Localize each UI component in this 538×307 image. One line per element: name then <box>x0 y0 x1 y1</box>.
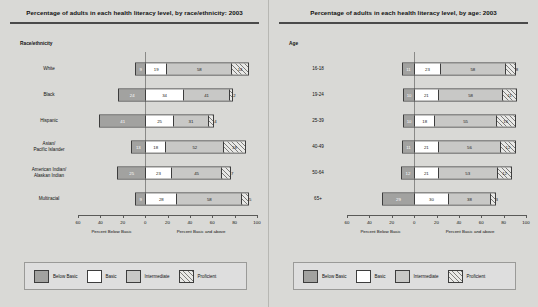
bar-segment-basic: 28 <box>146 194 177 205</box>
axis-tick-label: 20 <box>165 220 170 225</box>
axis-tick-label: 20 <box>120 220 125 225</box>
bar-segment-inter: 53 <box>439 168 498 179</box>
bar-segment-below: 9 <box>136 64 146 75</box>
legend-item: Below Basic <box>34 270 78 283</box>
legend-swatch-basic <box>87 270 102 283</box>
axis-caption-left: Percent Below Basic <box>360 229 400 234</box>
bar-segment-inter: 58 <box>177 194 242 205</box>
axis-tick <box>257 215 258 218</box>
panel-age: Percentage of adults in each health lite… <box>269 0 538 307</box>
bar-segment-inter: 38 <box>449 194 492 205</box>
axis-tick-label: 20 <box>434 220 439 225</box>
chart-row: Multiracial928585 <box>20 186 259 212</box>
axis-tick <box>481 215 482 218</box>
bar-segment-inter: 58 <box>439 90 504 101</box>
panel-title: Percentage of adults in each health lite… <box>269 9 538 16</box>
bar-segment-prof <box>491 194 494 205</box>
legend-label: Basic <box>106 274 117 279</box>
stacked-bar: 10185516 <box>403 115 516 128</box>
group-label: Race/ethnicity <box>20 41 53 46</box>
bar-segment-basic: 23 <box>415 64 441 75</box>
legend-label: Below Basic <box>53 274 78 279</box>
legend-item: Intermediate <box>395 270 439 283</box>
group-label: Age <box>289 41 298 46</box>
axis-tick-label: 60 <box>76 220 81 225</box>
axis-tick <box>504 215 505 218</box>
stacked-bar: 9195814 <box>135 63 249 76</box>
bar-segment-inter: 58 <box>441 64 506 75</box>
axis-tick <box>437 215 438 218</box>
stacked-bar: 10215811 <box>403 89 517 102</box>
bar-segment-inter: 58 <box>167 64 232 75</box>
stacked-bar: 12215312 <box>401 167 513 180</box>
bar-segment-below: 12 <box>402 168 415 179</box>
legend: Below BasicBasicIntermediateProficient <box>24 262 247 290</box>
bar-value-label: 2 <box>233 93 235 98</box>
category-label: 65+ <box>289 196 347 202</box>
axis-tick-label: 0 <box>144 220 146 225</box>
bar-value-label: 7 <box>231 171 233 176</box>
category-label: 16-18 <box>289 66 347 72</box>
bar-segment-inter: 56 <box>439 142 502 153</box>
axis-tick-label: 60 <box>479 220 484 225</box>
legend-swatch-prof <box>179 270 194 283</box>
chart-row: 40-4911215612 <box>289 134 528 160</box>
legend-swatch-below <box>34 270 49 283</box>
bar-segment-below: 11 <box>403 142 415 153</box>
axis-caption-right: Percent Basic and above <box>177 229 226 234</box>
legend-swatch-basic <box>356 270 371 283</box>
axis-tick <box>168 215 169 218</box>
plot-area: White9195814Black2434412Hispanic4125314A… <box>20 52 259 212</box>
title-rule <box>279 22 528 24</box>
axis-tick <box>123 215 124 218</box>
legend-label: Intermediate <box>145 274 170 279</box>
bar-segment-inter: 55 <box>435 116 497 127</box>
bar-segment-below: 9 <box>136 194 146 205</box>
chart-row: 50-6412215312 <box>289 160 528 186</box>
bar-segment-basic: 21 <box>415 142 438 153</box>
category-label: Hispanic <box>20 118 78 124</box>
legend-item: Proficient <box>179 270 217 283</box>
stacked-bar: 13185218 <box>131 141 246 154</box>
stacked-bar: 293038 <box>382 193 496 206</box>
legend: Below BasicBasicIntermediateProficient <box>293 262 516 290</box>
chart-row: Black2434412 <box>20 82 259 108</box>
bar-segment-inter: 31 <box>174 116 209 127</box>
bar-segment-basic: 34 <box>146 90 184 101</box>
axis-tick <box>459 215 460 218</box>
panel-race-ethnicity: Percentage of adults in each health lite… <box>0 0 269 307</box>
category-label: American Indian/Alaskan Indian <box>20 167 78 178</box>
bar-segment-prof: 12 <box>501 142 514 153</box>
bar-segment-prof: 12 <box>498 168 511 179</box>
chart-row: 25-3910185516 <box>289 108 528 134</box>
axis-tick-label: 80 <box>501 220 506 225</box>
axis-tick-label: 60 <box>210 220 215 225</box>
stacked-bar: 252345 <box>117 167 231 180</box>
bar-segment-prof: 14 <box>232 64 248 75</box>
bar-segment-prof: 16 <box>497 116 515 127</box>
bar-segment-inter: 41 <box>184 90 230 101</box>
axis-tick <box>145 215 146 218</box>
legend-item: Proficient <box>448 270 486 283</box>
bar-segment-basic: 21 <box>415 168 438 179</box>
axis-tick <box>235 215 236 218</box>
axis: 604020020406080100Percent Below BasicPer… <box>20 215 259 241</box>
axis: 604020020406080100Percent Below BasicPer… <box>289 215 528 241</box>
bar-segment-basic: 19 <box>146 64 167 75</box>
axis-tick <box>369 215 370 218</box>
axis-tick-label: 40 <box>367 220 372 225</box>
axis-tick <box>212 215 213 218</box>
axis-tick <box>392 215 393 218</box>
title-rule <box>10 22 259 24</box>
bar-segment-below: 25 <box>118 168 146 179</box>
stacked-bar: 412531 <box>99 115 214 128</box>
legend-label: Proficient <box>198 274 217 279</box>
chart-row: American Indian/Alaskan Indian2523457 <box>20 160 259 186</box>
bar-segment-prof: 11 <box>503 90 515 101</box>
category-label: 25-39 <box>289 118 347 124</box>
bar-segment-below: 10 <box>404 90 415 101</box>
legend-label: Below Basic <box>322 274 347 279</box>
plot-area: 16-18112358819-241021581125-391018551640… <box>289 52 528 212</box>
legend-item: Below Basic <box>303 270 347 283</box>
axis-tick-label: 80 <box>232 220 237 225</box>
